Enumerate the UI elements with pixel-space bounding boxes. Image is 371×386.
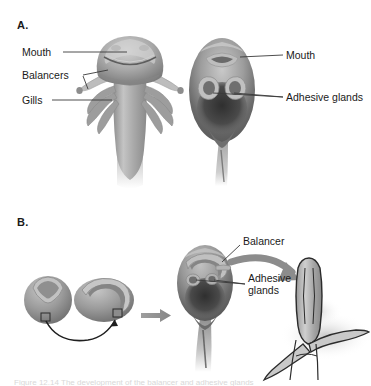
- panel-a-right-tadpole-art: [189, 38, 255, 186]
- label-adhesive-glands-b: Adhesive glands: [248, 272, 310, 296]
- label-mouth-right: Mouth: [286, 49, 315, 61]
- figure-caption: Figure 12.14 The development of the bala…: [14, 378, 358, 386]
- panel-b-embryo-one-art: [24, 276, 72, 324]
- label-balancers: Balancers: [22, 69, 69, 81]
- panel-b-letter: B.: [17, 216, 28, 228]
- panel-a-leader-lines: [52, 52, 283, 100]
- label-balancer: Balancer: [243, 235, 284, 247]
- figure-container: A. Mouth Balancers Gills Mouth Adhesive …: [0, 0, 371, 386]
- panel-b-transition-arrow: [141, 309, 171, 322]
- label-adhesive-glands-a: Adhesive glands: [286, 91, 363, 103]
- label-gills: Gills: [22, 94, 42, 106]
- panel-a-left-tadpole-art: [76, 36, 183, 189]
- figure-artwork: [0, 0, 371, 386]
- panel-a-letter: A.: [17, 19, 28, 31]
- label-mouth-left: Mouth: [22, 46, 51, 58]
- panel-b-tadpole-art: [177, 245, 233, 372]
- panel-b-leader-lines: [196, 245, 245, 284]
- panel-b-embryo-two-art: [46, 278, 134, 341]
